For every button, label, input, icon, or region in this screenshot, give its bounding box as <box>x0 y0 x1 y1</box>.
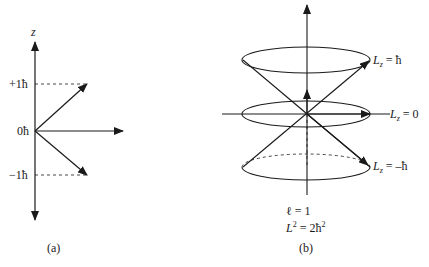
l-squared-label: L2 = 2ħ2 <box>286 221 325 234</box>
panel-b <box>222 5 390 195</box>
hbar-sup: 2 <box>321 220 325 229</box>
tick-zero: 0ħ <box>17 125 29 137</box>
lz-symbol: L <box>373 159 380 173</box>
vector-plus-one <box>35 84 87 131</box>
l-symbol: L <box>286 221 293 235</box>
caption-a: (a) <box>47 242 60 254</box>
l-squared-value: = 2ħ <box>297 221 322 235</box>
lz-symbol: L <box>390 107 397 121</box>
lz-value: = –ħ <box>383 159 408 173</box>
label-lz-plus: Lz = ħ <box>373 54 402 69</box>
bottom-circle-back <box>242 154 370 167</box>
bottom-circle-front <box>242 167 370 180</box>
panel-a <box>35 42 123 220</box>
vector-minus-one <box>35 131 87 175</box>
tick-minus-one: −1ħ <box>9 169 28 181</box>
caption-b: (b) <box>299 242 313 254</box>
lz-value: = 0 <box>400 107 419 121</box>
tick-plus-one: +1ħ <box>9 78 28 90</box>
label-lz-zero: Lz = 0 <box>390 108 419 123</box>
label-lz-minus: Lz = –ħ <box>373 160 408 175</box>
z-axis-label: z <box>31 26 36 38</box>
diagram-canvas <box>0 0 429 267</box>
quantum-number-l: ℓ = 1 <box>286 205 311 217</box>
top-circle <box>242 47 370 73</box>
lz-value: = ħ <box>383 53 402 67</box>
lz-symbol: L <box>373 53 380 67</box>
